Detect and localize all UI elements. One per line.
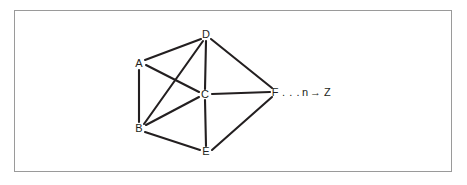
graph-canvas: A B C D E F . . . n → Z [0, 0, 467, 185]
arrow-right-icon: → [310, 86, 322, 98]
node-label-n: n [302, 86, 309, 98]
edge-e-f [212, 97, 272, 150]
node-label-z: Z [324, 86, 331, 98]
node-label-f: F [272, 86, 279, 98]
node-label-e: E [202, 145, 209, 157]
node-label-a: A [135, 57, 143, 69]
figure-root: A B C D E F . . . n → Z [0, 0, 467, 185]
edge-d-f [211, 39, 272, 88]
node-label-c: C [201, 88, 209, 100]
edge-a-c [146, 65, 199, 92]
edge-c-d [205, 41, 206, 89]
edge-c-e [205, 100, 206, 146]
ellipsis-label: . . . [282, 86, 300, 98]
edge-b-e [145, 132, 200, 150]
node-label-b: B [135, 122, 142, 134]
node-label-d: D [202, 28, 210, 40]
edge-c-f [212, 92, 270, 94]
continuation-annotation: . . . n → Z [282, 86, 331, 98]
